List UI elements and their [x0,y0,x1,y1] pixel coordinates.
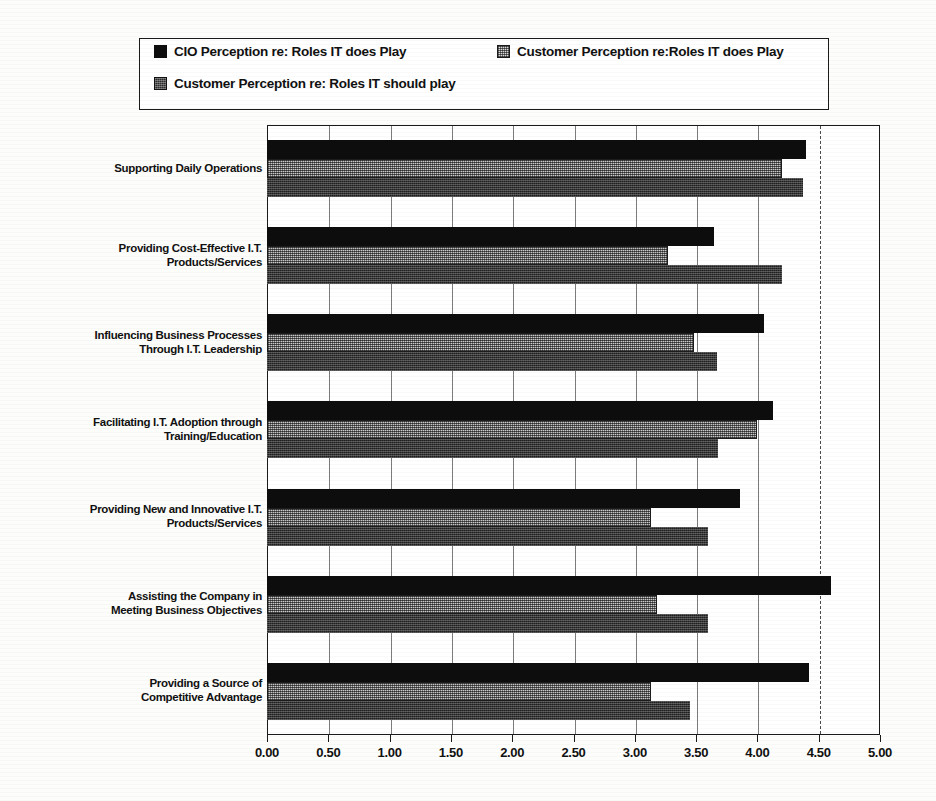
category-label-line: Products/Services [40,255,262,269]
bar-group [267,386,880,473]
x-tick-label: 0.50 [302,745,354,760]
x-tick-label: 2.50 [548,745,600,760]
bar-group [267,299,880,386]
x-tick-label: 5.00 [854,745,906,760]
x-tick-mark [267,735,268,742]
x-tick-mark [574,735,575,742]
x-tick-label: 3.00 [609,745,661,760]
category-label: Providing Cost-Effective I.T.Products/Se… [40,241,262,269]
x-tick-label: 3.50 [670,745,722,760]
category-label-line: Assisting the Company in [40,589,262,603]
bar-series-2 [267,246,668,265]
category-label-line: Providing Cost-Effective I.T. [40,241,262,255]
category-axis-labels: Supporting Daily OperationsProviding Cos… [40,125,262,735]
category-label: Influencing Business ProcessesThrough I.… [40,328,262,356]
x-tick-label: 0.00 [241,745,293,760]
bar-series-2 [267,682,651,701]
category-label-line: Competitive Advantage [40,690,262,704]
x-tick-label: 1.00 [364,745,416,760]
bar-series-2 [267,420,757,439]
x-tick-mark [390,735,391,742]
bar-series-2 [267,159,782,178]
legend-label: Customer Perception re: Roles IT should … [174,77,456,91]
bar-series-1 [267,314,764,333]
x-tick-label: 4.00 [731,745,783,760]
x-tick-mark [757,735,758,742]
bar-series-1 [267,401,773,420]
bar-series-1 [267,489,740,508]
category-label: Supporting Daily Operations [40,161,262,175]
legend-entry-customer-does-play: Customer Perception re:Roles IT does Pla… [497,45,784,59]
bar-series-3 [267,527,708,546]
x-tick-mark [635,735,636,742]
x-tick-mark [512,735,513,742]
bar-series-3 [267,614,708,633]
bar-series-3 [267,439,718,458]
bar-series-3 [267,265,782,284]
category-label-line: Facilitating I.T. Adoption through [40,415,262,429]
legend-row-top: CIO Perception re: Roles IT does Play Cu… [140,45,828,75]
category-label: Providing a Source ofCompetitive Advanta… [40,676,262,704]
bar-group [267,212,880,299]
bar-group [267,648,880,735]
x-tick-mark [696,735,697,742]
bar-series-1 [267,576,831,595]
x-tick-label: 4.50 [793,745,845,760]
category-label-line: Providing New and Innovative I.T. [40,502,262,516]
category-label: Facilitating I.T. Adoption throughTraini… [40,415,262,443]
bar-series-3 [267,352,717,371]
legend-entry-cio-does-play: CIO Perception re: Roles IT does Play [154,45,406,59]
bar-series-3 [267,178,803,197]
bar-group [267,474,880,561]
bar-chart: CIO Perception re: Roles IT does Play Cu… [0,0,936,801]
legend-row-bottom: Customer Perception re: Roles IT should … [140,77,828,107]
x-tick-label: 1.50 [425,745,477,760]
bar-series-2 [267,508,651,527]
x-tick-mark [451,735,452,742]
bar-series-1 [267,140,806,159]
bar-series-1 [267,227,714,246]
bar-group [267,561,880,648]
legend-label: Customer Perception re:Roles IT does Pla… [517,45,784,59]
category-label-line: Meeting Business Objectives [40,603,262,617]
bars-layer [267,125,880,735]
bar-series-2 [267,333,694,352]
bar-series-2 [267,595,657,614]
legend-label: CIO Perception re: Roles IT does Play [174,45,406,59]
category-label: Assisting the Company inMeeting Business… [40,589,262,617]
chart-legend: CIO Perception re: Roles IT does Play Cu… [139,38,829,110]
category-label-line: Training/Education [40,429,262,443]
legend-entry-customer-should-play: Customer Perception re: Roles IT should … [154,77,456,91]
category-label-line: Products/Services [40,516,262,530]
light-hatch-swatch-icon [497,45,510,58]
category-label-line: Supporting Daily Operations [40,161,262,175]
category-label: Providing New and Innovative I.T.Product… [40,502,262,530]
bar-series-3 [267,701,690,720]
category-label-line: Through I.T. Leadership [40,342,262,356]
bar-series-1 [267,663,809,682]
category-label-line: Influencing Business Processes [40,328,262,342]
solid-black-swatch-icon [154,45,167,58]
dark-hatch-swatch-icon [154,77,167,90]
x-tick-mark [328,735,329,742]
x-tick-mark [819,735,820,742]
x-tick-label: 2.00 [486,745,538,760]
category-label-line: Providing a Source of [40,676,262,690]
bar-group [267,125,880,212]
x-tick-mark [880,735,881,742]
